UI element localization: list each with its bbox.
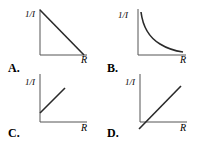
option-label: B. xyxy=(107,61,118,75)
x-axis-label: R xyxy=(80,122,87,133)
x-axis-label: R xyxy=(80,54,87,65)
panel-b: 1/I R B. xyxy=(107,9,186,75)
panel-d: 1/I R D. xyxy=(107,74,187,140)
x-axis-label: R xyxy=(179,122,186,133)
panel-c: 1/I R C. xyxy=(8,74,87,140)
y-axis-label: 1/I xyxy=(118,10,129,20)
option-label: A. xyxy=(8,61,20,75)
graph-curve xyxy=(141,12,183,52)
graph-line xyxy=(40,88,65,113)
y-axis-label: 1/I xyxy=(25,9,36,19)
option-label: D. xyxy=(107,126,119,140)
y-axis-label: 1/I xyxy=(25,77,36,87)
graph-line xyxy=(40,10,84,55)
y-axis-label: 1/I xyxy=(125,77,136,87)
option-label: C. xyxy=(8,126,20,140)
graph-line xyxy=(139,86,181,129)
graph-options-diagram: 1/I R A. 1/I R B. 1/I R C. 1/I R D. xyxy=(0,0,199,142)
panel-a: 1/I R A. xyxy=(8,9,87,75)
x-axis-label: R xyxy=(179,54,186,65)
